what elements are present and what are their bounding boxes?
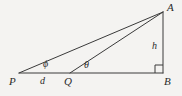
angle-theta-label: θ <box>84 60 89 70</box>
height-label: h <box>152 41 157 51</box>
geometry-figure: A B P Q h d ϕ θ <box>0 0 182 96</box>
vertex-label-a: A <box>167 2 174 13</box>
segment-hypotenuse-pa <box>19 12 163 73</box>
vertex-label-b: B <box>164 76 171 87</box>
distance-label: d <box>40 76 45 86</box>
right-angle-marker <box>155 65 163 73</box>
angle-phi-label: ϕ <box>43 59 48 69</box>
vertex-label-q: Q <box>64 76 72 87</box>
vertex-label-p: P <box>9 76 16 87</box>
